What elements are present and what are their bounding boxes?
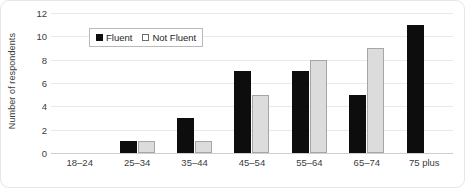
bar-fluent	[234, 71, 251, 153]
x-tick-label: 25–34	[108, 157, 165, 177]
bar-fluent	[349, 95, 366, 153]
legend-entry[interactable]: Fluent	[96, 32, 132, 43]
x-tick-label: 65–74	[338, 157, 395, 177]
y-tick-label: 6	[42, 78, 47, 89]
y-axis-title-text: Number of respondents	[7, 33, 17, 129]
bar-not-fluent	[252, 95, 269, 153]
legend-entry[interactable]: Not Fluent	[142, 32, 196, 43]
x-tick-label: 18–24	[51, 157, 108, 177]
filled-square-icon	[96, 34, 103, 41]
y-axis-tick-labels: 024681012	[21, 13, 47, 153]
bar-group	[338, 13, 395, 153]
bar-not-fluent	[138, 141, 155, 153]
x-tick-label: 45–54	[223, 157, 280, 177]
bar-not-fluent	[310, 60, 327, 153]
y-axis-title: Number of respondents	[3, 1, 21, 161]
bar-group	[223, 13, 280, 153]
x-tick-label: 75 plus	[396, 157, 453, 177]
bar-not-fluent	[195, 141, 212, 153]
y-tick-label: 4	[42, 101, 47, 112]
x-tick-label: 35–44	[166, 157, 223, 177]
bar-fluent	[407, 25, 424, 153]
y-tick-label: 10	[36, 31, 47, 42]
y-tick-label: 2	[42, 124, 47, 135]
chart-legend: FluentNot Fluent	[89, 28, 203, 47]
bar-group	[396, 13, 453, 153]
bar-fluent	[120, 141, 137, 153]
axis-baseline	[51, 153, 453, 154]
open-square-icon	[142, 34, 149, 41]
x-tick-label: 55–64	[281, 157, 338, 177]
bar-fluent	[177, 118, 194, 153]
bar-fluent	[292, 71, 309, 153]
y-tick-label: 12	[36, 8, 47, 19]
y-tick-label: 8	[42, 54, 47, 65]
bar-group	[281, 13, 338, 153]
legend-label: Fluent	[106, 32, 132, 43]
bar-not-fluent	[367, 48, 384, 153]
bar-chart-card: Number of respondents 024681012 18–2425–…	[0, 0, 465, 188]
legend-label: Not Fluent	[152, 32, 196, 43]
x-axis-tick-labels: 18–2425–3435–4445–5455–6465–7475 plus	[51, 157, 453, 177]
y-tick-label: 0	[42, 148, 47, 159]
